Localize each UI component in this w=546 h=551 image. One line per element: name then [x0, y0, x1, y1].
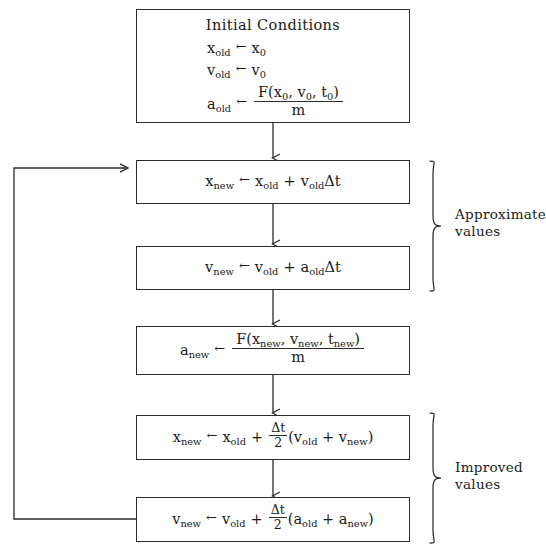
fraction-delta-t-over-two: Δt 2: [269, 421, 287, 451]
box-x-new-improved: xnew ← xold + Δt 2 (vold + vnew): [136, 415, 410, 460]
term-x-old: xold: [222, 430, 246, 445]
assign-arrow-icon: ←: [209, 342, 230, 356]
fraction-numerator: F(x0, v0, t0): [254, 85, 343, 102]
fraction-force-over-mass: F(x0, v0, t0) m: [254, 85, 343, 118]
assign-arrow-icon: ←: [231, 40, 252, 54]
term-v-old: vold: [207, 63, 231, 78]
term-v-old: vold: [222, 512, 246, 527]
box-v-new-improved: vnew ← vold + Δt 2 (aold + anew): [136, 497, 410, 542]
fraction-numerator: Δt: [269, 421, 287, 436]
term-a-new: anew: [180, 343, 209, 358]
assign-arrow-icon: ←: [201, 429, 222, 443]
term-x-zero: x0: [252, 41, 266, 56]
box-initial-conditions: Initial Conditions xold ← x0 vold ← v0 a…: [136, 9, 410, 123]
box-x-new-approximate: xnew ← xold + voldΔt: [136, 160, 410, 204]
box-v-new-approximate: vnew ← vold + aoldΔt: [136, 246, 410, 290]
term-v-new: vnew: [205, 260, 234, 275]
equation-v-new-improved: vnew ← vold + Δt 2 (aold + anew): [172, 505, 374, 535]
equation-a-old: aold ← F(x0, v0, t0) m: [207, 87, 345, 120]
label-improved-values-line2: values: [455, 476, 523, 493]
equation-x-old: xold ← x0: [207, 41, 266, 56]
box-a-new: anew ← F(xnew, vnew, tnew) m: [136, 326, 410, 375]
brace-approximate-values: [430, 161, 441, 291]
label-approximate-values-line1: Approximate: [455, 206, 546, 223]
equation-v-old: vold ← v0: [207, 63, 266, 78]
term-a-old-delta-t: aoldΔt: [301, 260, 341, 275]
term-v-old-delta-t: voldΔt: [301, 174, 341, 189]
fraction-delta-t-over-two: Δt 2: [269, 503, 287, 533]
term-x-new: xnew: [173, 430, 202, 445]
label-approximate-values-line2: values: [455, 223, 546, 240]
term-x-old: xold: [255, 174, 279, 189]
term-v-old: vold: [255, 260, 279, 275]
initial-conditions-equations: xold ← x0 vold ← v0 aold ← F(x0, v0, t0)…: [207, 41, 345, 121]
term-x-old: xold: [207, 41, 231, 56]
assign-arrow-icon: ←: [234, 173, 255, 187]
feedback-loop-arrow: [14, 168, 136, 519]
label-approximate-values: Approximate values: [455, 206, 546, 241]
equation-x-new-approximate: xnew ← xold + voldΔt: [205, 174, 340, 189]
equation-v-new-approximate: vnew ← vold + aoldΔt: [205, 260, 341, 275]
group-acceleration-sum: (aold + anew): [288, 512, 374, 527]
label-improved-values-line1: Improved: [455, 459, 523, 476]
fraction-numerator: F(xnew, vnew, tnew): [232, 332, 364, 349]
assign-arrow-icon: ←: [231, 95, 252, 109]
group-velocity-sum: (vold + vnew): [288, 430, 373, 445]
equation-x-new-improved: xnew ← xold + Δt 2 (vold + vnew): [173, 423, 374, 453]
fraction-denominator: m: [287, 349, 309, 365]
operator-plus: +: [246, 430, 268, 445]
assign-arrow-icon: ←: [231, 62, 252, 76]
box-heading: Initial Conditions: [206, 17, 340, 33]
term-v-new: vnew: [172, 512, 201, 527]
operator-plus: +: [279, 174, 301, 189]
label-improved-values: Improved values: [455, 459, 523, 494]
term-v-zero: v0: [252, 63, 266, 78]
brace-improved-values: [430, 413, 441, 543]
fraction-force-new-over-mass: F(xnew, vnew, tnew) m: [232, 332, 364, 365]
operator-plus: +: [278, 260, 300, 275]
fraction-denominator: 2: [272, 518, 284, 532]
fraction-denominator: 2: [272, 436, 284, 450]
fraction-denominator: m: [288, 102, 310, 118]
term-a-old: aold: [207, 97, 231, 112]
fraction-numerator: Δt: [269, 503, 287, 518]
operator-plus: +: [246, 512, 268, 527]
equation-a-new: anew ← F(xnew, vnew, tnew) m: [180, 334, 366, 367]
assign-arrow-icon: ←: [201, 511, 222, 525]
term-x-new: xnew: [205, 174, 234, 189]
assign-arrow-icon: ←: [234, 259, 255, 273]
